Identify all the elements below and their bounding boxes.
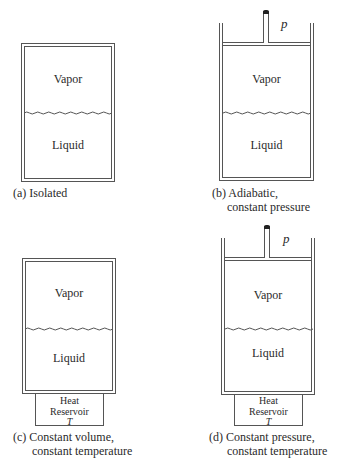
vapor-label: Vapor xyxy=(21,72,115,87)
caption-d-line2: constant temperature xyxy=(227,444,327,458)
pressure-symbol: p xyxy=(283,231,290,247)
rod-cap xyxy=(263,10,269,14)
liquid-label: Liquid xyxy=(21,138,115,153)
caption-c-line1: (c) Constant volume, xyxy=(13,430,114,444)
cylinder-inner xyxy=(222,23,311,178)
liquid-surface xyxy=(223,110,310,116)
heat-reservoir: Heat Reservoir T xyxy=(35,394,104,426)
heat-reservoir: Heat Reservoir T xyxy=(234,394,303,426)
piston-rod xyxy=(263,11,269,43)
liquid-surface xyxy=(25,326,113,332)
vapor-label: Vapor xyxy=(224,288,312,303)
caption-d-line1: (d) Constant pressure, xyxy=(209,430,315,444)
rod-cap xyxy=(264,225,270,229)
liquid-label: Liquid xyxy=(22,351,116,366)
caption-c-line2: constant temperature xyxy=(32,444,132,458)
piston-rod xyxy=(264,226,270,258)
vapor-label: Vapor xyxy=(222,72,311,87)
liquid-label: Liquid xyxy=(222,138,311,153)
caption-b-line2: constant pressure xyxy=(227,200,310,214)
caption-a: (a) Isolated xyxy=(13,186,67,200)
reservoir-line1: Heat xyxy=(235,396,302,407)
cylinder-inner xyxy=(224,238,312,392)
caption-b-line1: (b) Adiabatic, xyxy=(212,186,278,200)
vapor-label: Vapor xyxy=(22,286,116,301)
pressure-symbol: p xyxy=(281,16,288,32)
liquid-label: Liquid xyxy=(224,346,312,361)
liquid-surface xyxy=(225,326,311,332)
reservoir-line1: Heat xyxy=(36,396,103,407)
liquid-surface xyxy=(24,110,112,116)
reservoir-temperature: T xyxy=(235,417,302,428)
reservoir-temperature: T xyxy=(36,417,103,428)
